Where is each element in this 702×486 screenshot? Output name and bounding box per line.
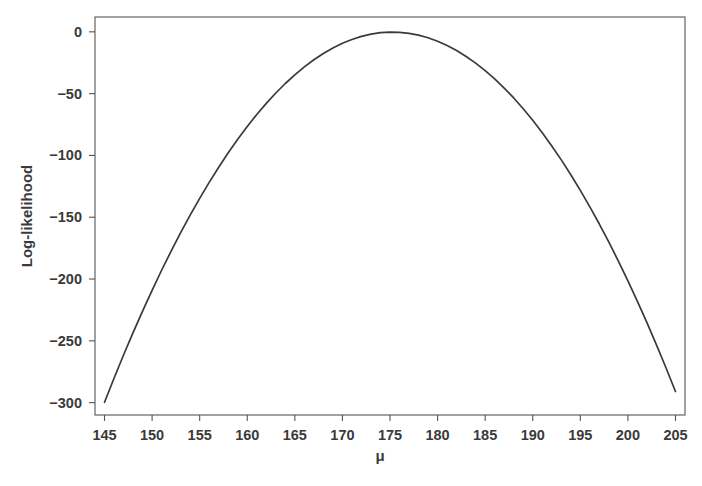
x-tick-label: 165 [283,427,307,443]
chart-canvas: 0−50−100−150−200−250−300 145150155160165… [0,0,702,486]
x-tick-label: 185 [473,427,497,443]
y-tick-label: −50 [57,86,82,102]
y-tick-label: −250 [49,333,82,349]
x-axis-title: μ [375,447,384,464]
y-tick-label: −300 [49,395,82,411]
x-tick-label: 205 [663,427,687,443]
x-tick-label: 200 [616,427,640,443]
chart-background [0,0,702,486]
x-tick-label: 170 [330,427,354,443]
x-tick-label: 180 [425,427,449,443]
y-tick-label: −200 [49,271,82,287]
x-tick-label: 145 [92,427,116,443]
x-tick-label: 190 [521,427,545,443]
x-tick-label: 150 [140,427,164,443]
x-tick-label: 160 [235,427,259,443]
y-tick-label: −150 [49,209,82,225]
x-tick-label: 195 [568,427,592,443]
y-tick-label: −100 [49,147,82,163]
x-tick-label: 155 [188,427,212,443]
log-likelihood-chart: 0−50−100−150−200−250−300 145150155160165… [0,0,702,486]
y-axis-title: Log-likelihood [18,165,35,268]
y-tick-label: 0 [74,24,82,40]
x-tick-label: 175 [378,427,402,443]
